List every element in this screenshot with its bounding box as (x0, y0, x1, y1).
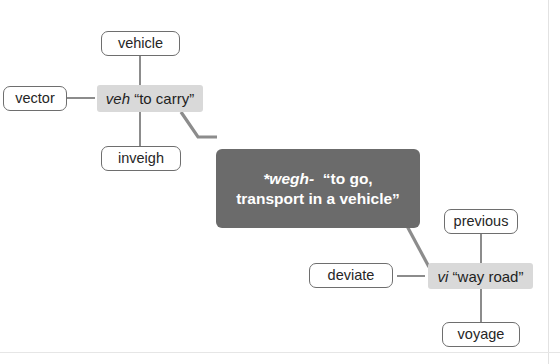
node-previous[interactable]: previous (444, 209, 518, 234)
node-inveigh-label: inveigh (118, 151, 164, 166)
node-inveigh[interactable]: inveigh (101, 146, 181, 171)
node-vi-root-gloss: “way road” (453, 269, 524, 284)
node-vehicle-label: vehicle (118, 36, 163, 51)
etymology-diagram-canvas: vehicle vector veh “to carry” inveigh *w… (0, 0, 560, 364)
connector-deviate-to-vi (397, 275, 425, 277)
node-pie-root-form: *wegh- (263, 170, 314, 187)
node-veh-root-gloss: “to carry” (134, 91, 194, 106)
node-veh-root[interactable]: veh “to carry” (97, 85, 203, 112)
node-pie-root-gloss-line1: “to go, (323, 170, 373, 187)
node-pie-root-text: *wegh- “to go, transport in a vehicle” (236, 169, 400, 209)
node-vehicle[interactable]: vehicle (101, 31, 180, 56)
node-pie-root-gloss-line2: transport in a vehicle” (236, 190, 400, 207)
node-pie-root[interactable]: *wegh- “to go, transport in a vehicle” (216, 149, 420, 228)
node-voyage-label: voyage (458, 327, 505, 342)
connector-vi-to-voyage (480, 288, 482, 323)
node-deviate[interactable]: deviate (309, 263, 393, 288)
node-vector-label: vector (15, 91, 55, 106)
node-voyage[interactable]: voyage (442, 322, 520, 347)
node-veh-root-form: veh (106, 91, 130, 106)
node-vi-root-form: vi (438, 269, 449, 284)
node-vi-root[interactable]: vi “way road” (428, 263, 533, 289)
node-previous-label: previous (454, 214, 509, 229)
connector-root-to-vi-path (407, 226, 429, 267)
node-deviate-label: deviate (328, 268, 375, 283)
node-vector[interactable]: vector (3, 86, 67, 111)
connector-previous-to-vi (480, 234, 482, 264)
